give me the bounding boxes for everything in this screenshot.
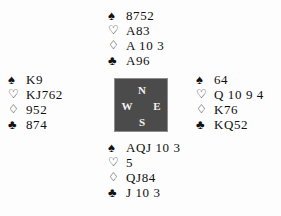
compass-label-west: W — [120, 101, 134, 112]
hand-north-hearts: A83 — [121, 23, 150, 38]
club-icon: ♣ — [108, 185, 121, 200]
hand-south-clubs-row: ♣ J 10 3 — [108, 185, 181, 200]
hand-west-hearts: KJ762 — [21, 87, 63, 102]
hand-north-hearts-row: ♡ A83 — [108, 23, 164, 38]
heart-icon: ♡ — [108, 155, 121, 170]
compass-label-north: N — [135, 85, 149, 96]
club-icon: ♣ — [108, 53, 121, 68]
hand-south: ♠ AQJ 10 3 ♡ 5 ♢ QJ84 ♣ J 10 3 — [108, 140, 181, 200]
hand-north: ♠ 8752 ♡ A83 ♢ A 10 3 ♣ A96 — [108, 8, 164, 68]
diamond-icon: ♢ — [8, 102, 21, 117]
hand-east-clubs-row: ♣ KQ52 — [196, 117, 264, 132]
hand-south-hearts-row: ♡ 5 — [108, 155, 181, 170]
hand-south-hearts: 5 — [121, 155, 133, 170]
spade-icon: ♠ — [8, 72, 21, 87]
hand-west-clubs-row: ♣ 874 — [8, 117, 63, 132]
hand-east-hearts: Q 10 9 4 — [209, 87, 264, 102]
club-icon: ♣ — [8, 117, 21, 132]
club-icon: ♣ — [196, 117, 209, 132]
hand-north-diamonds: A 10 3 — [121, 38, 164, 53]
heart-icon: ♡ — [196, 87, 209, 102]
hand-south-spades-row: ♠ AQJ 10 3 — [108, 140, 181, 155]
bridge-deal-diagram: ♠ 8752 ♡ A83 ♢ A 10 3 ♣ A96 ♠ K9 ♡ KJ762… — [0, 0, 281, 216]
spade-icon: ♠ — [108, 140, 121, 155]
hand-north-clubs: A96 — [121, 53, 150, 68]
compass-label-east: E — [150, 101, 164, 112]
hand-west-clubs: 874 — [21, 117, 47, 132]
compass-label-south: S — [135, 117, 149, 128]
hand-east-clubs: KQ52 — [209, 117, 248, 132]
diamond-icon: ♢ — [108, 170, 121, 185]
hand-north-clubs-row: ♣ A96 — [108, 53, 164, 68]
hand-east-hearts-row: ♡ Q 10 9 4 — [196, 87, 264, 102]
hand-west-spades: K9 — [21, 72, 43, 87]
hand-east-spades: 64 — [209, 72, 228, 87]
hand-east: ♠ 64 ♡ Q 10 9 4 ♢ K76 ♣ KQ52 — [196, 72, 264, 132]
hand-west-diamonds: 952 — [21, 102, 47, 117]
hand-south-diamonds: QJ84 — [121, 170, 156, 185]
hand-south-diamonds-row: ♢ QJ84 — [108, 170, 181, 185]
spade-icon: ♠ — [108, 8, 121, 23]
hand-east-diamonds: K76 — [209, 102, 238, 117]
hand-west: ♠ K9 ♡ KJ762 ♢ 952 ♣ 874 — [8, 72, 63, 132]
hand-north-diamonds-row: ♢ A 10 3 — [108, 38, 164, 53]
hand-south-spades: AQJ 10 3 — [121, 140, 181, 155]
hand-north-spades: 8752 — [121, 8, 154, 23]
heart-icon: ♡ — [8, 87, 21, 102]
hand-east-spades-row: ♠ 64 — [196, 72, 264, 87]
spade-icon: ♠ — [196, 72, 209, 87]
diamond-icon: ♢ — [108, 38, 121, 53]
diamond-icon: ♢ — [196, 102, 209, 117]
hand-west-hearts-row: ♡ KJ762 — [8, 87, 63, 102]
hand-east-diamonds-row: ♢ K76 — [196, 102, 264, 117]
hand-north-spades-row: ♠ 8752 — [108, 8, 164, 23]
hand-west-diamonds-row: ♢ 952 — [8, 102, 63, 117]
heart-icon: ♡ — [108, 23, 121, 38]
hand-west-spades-row: ♠ K9 — [8, 72, 63, 87]
hand-south-clubs: J 10 3 — [121, 185, 161, 200]
compass-box: N W E S — [114, 78, 168, 132]
